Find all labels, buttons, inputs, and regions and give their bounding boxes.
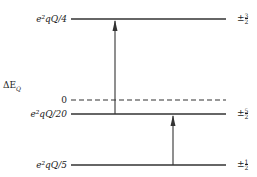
energy-label-level-2: e²qQ/20 <box>30 109 67 119</box>
fraction: 32 <box>245 13 249 24</box>
energy-label-level-3: e²qQ/5 <box>36 160 67 170</box>
energy-label-zero: 0 <box>61 95 67 105</box>
energy-level-diagram <box>0 0 257 177</box>
axis-label-text: ΔE <box>3 80 16 90</box>
pm-sign: ± <box>237 13 245 23</box>
pm-sign: ± <box>237 159 245 169</box>
arrowhead-icon <box>113 20 118 31</box>
fraction: 12 <box>245 159 249 170</box>
fraction: 52 <box>245 108 249 119</box>
denominator: 2 <box>245 165 249 170</box>
denominator: 2 <box>245 19 249 24</box>
axis-label: ΔEQ <box>3 80 21 94</box>
arrowhead-icon <box>171 115 176 126</box>
axis-label-sub: Q <box>16 85 21 92</box>
energy-label-level-1: e²qQ/4 <box>36 14 67 24</box>
m-label-5-2: ±52 <box>237 108 248 119</box>
denominator: 2 <box>245 114 249 119</box>
m-label-3-2: ±32 <box>237 13 248 24</box>
pm-sign: ± <box>237 108 245 118</box>
m-label-1-2: ±12 <box>237 159 248 170</box>
